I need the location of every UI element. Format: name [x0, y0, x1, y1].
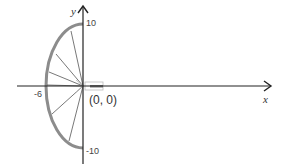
y-tick-top: 10 [86, 18, 96, 28]
radial-line [49, 72, 83, 86]
radial-line [56, 54, 83, 86]
origin-label: (0, 0) [89, 93, 117, 107]
y-axis-label: y [70, 5, 76, 17]
radial-line [69, 86, 83, 141]
x-tick-left: -6 [34, 89, 42, 99]
y-tick-bottom: -10 [86, 146, 99, 156]
coordinate-diagram: x y 10 -10 -6 (0, 0) [0, 0, 284, 167]
radial-line [71, 31, 83, 86]
x-axis-label: x [262, 93, 268, 105]
